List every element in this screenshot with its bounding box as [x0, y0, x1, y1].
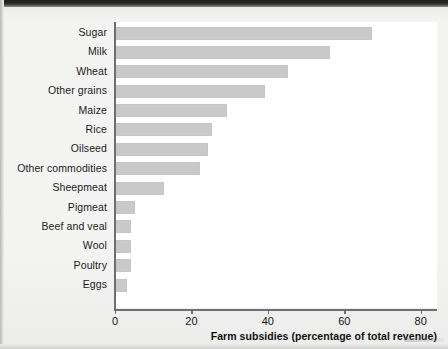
- x-tick: [268, 309, 269, 314]
- x-tick-label: 80: [401, 315, 441, 327]
- bar-row: Oilseed: [0, 140, 448, 159]
- category-label: Poultry: [0, 259, 107, 271]
- bar: [116, 279, 127, 292]
- category-label: Wool: [0, 239, 107, 251]
- x-tick-label: 60: [324, 315, 364, 327]
- bar-track: [116, 65, 437, 78]
- bar-row: Poultry: [0, 257, 448, 276]
- category-label: Milk: [0, 45, 107, 57]
- bar-track: [116, 104, 437, 117]
- bar-row: Sugar: [0, 24, 448, 43]
- bar: [116, 182, 164, 195]
- scanned-chart-page: SugarMilkWheatOther grainsMaizeRiceOilse…: [0, 0, 448, 349]
- bar-track: [116, 143, 437, 156]
- category-label: Other grains: [0, 84, 107, 96]
- bar-row: Sheepmeat: [0, 179, 448, 198]
- x-tick-label: 40: [248, 315, 288, 327]
- category-label: Maize: [0, 104, 107, 116]
- category-label: Beef and veal: [0, 220, 107, 232]
- bar: [116, 220, 131, 233]
- x-tick-label: 0: [95, 315, 135, 327]
- bar: [116, 104, 227, 117]
- bar: [116, 27, 372, 40]
- scan-edge-top: [0, 0, 448, 7]
- bar-track: [116, 182, 437, 195]
- bar-row: Pigmeat: [0, 199, 448, 218]
- category-label: Oilseed: [0, 142, 107, 154]
- bar-track: [116, 201, 437, 214]
- bar-track: [116, 279, 437, 292]
- bar-track: [116, 85, 437, 98]
- bar: [116, 143, 208, 156]
- x-axis-line: [114, 309, 437, 311]
- bar: [116, 65, 288, 78]
- bar-rows: SugarMilkWheatOther grainsMaizeRiceOilse…: [0, 24, 448, 295]
- category-label: Pigmeat: [0, 201, 107, 213]
- bar-row: Other commodities: [0, 160, 448, 179]
- bar-row: Milk: [0, 43, 448, 62]
- category-label: Wheat: [0, 65, 107, 77]
- scan-artifact: [404, 338, 444, 342]
- bar: [116, 201, 135, 214]
- category-label: Sheepmeat: [0, 181, 107, 193]
- x-axis-title: Farm subsidies (percentage of total reve…: [0, 330, 437, 342]
- scan-edge-bottom: [0, 344, 448, 349]
- bar-row: Other grains: [0, 82, 448, 101]
- bar-track: [116, 162, 437, 175]
- bar: [116, 162, 200, 175]
- bar-row: Beef and veal: [0, 218, 448, 237]
- bar: [116, 46, 330, 59]
- bar-track: [116, 27, 437, 40]
- x-tick: [421, 309, 422, 314]
- x-tick: [115, 309, 116, 314]
- bar: [116, 240, 131, 253]
- bar: [116, 259, 131, 272]
- x-tick: [344, 309, 345, 314]
- bar-row: Maize: [0, 102, 448, 121]
- bar-chart: SugarMilkWheatOther grainsMaizeRiceOilse…: [0, 0, 448, 349]
- category-label: Other commodities: [0, 162, 107, 174]
- scan-edge-left: [0, 0, 4, 349]
- bar-row: Wheat: [0, 63, 448, 82]
- bar-row: Eggs: [0, 276, 448, 295]
- category-label: Eggs: [0, 278, 107, 290]
- bar-track: [116, 123, 437, 136]
- x-tick: [191, 309, 192, 314]
- bar-track: [116, 46, 437, 59]
- category-label: Rice: [0, 123, 107, 135]
- category-label: Sugar: [0, 26, 107, 38]
- x-tick-label: 20: [171, 315, 211, 327]
- bar-track: [116, 259, 437, 272]
- bar-track: [116, 220, 437, 233]
- bar-row: Rice: [0, 121, 448, 140]
- bar: [116, 85, 265, 98]
- bar: [116, 123, 212, 136]
- bar-row: Wool: [0, 237, 448, 256]
- bar-track: [116, 240, 437, 253]
